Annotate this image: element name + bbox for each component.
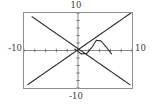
- plot-frame: [23, 12, 133, 89]
- curves-layer: [28, 13, 131, 85]
- axes-layer: [24, 13, 132, 88]
- axis-label-top: 10: [0, 1, 152, 10]
- curve-v-peak-curve: [75, 40, 112, 54]
- axis-label-bottom: -10: [0, 92, 152, 101]
- axis-label-right: 10: [135, 44, 152, 53]
- plot-canvas: [24, 13, 132, 88]
- axis-label-left: -10: [1, 44, 22, 53]
- graph-figure: 10 -10 10 -10: [0, 0, 152, 105]
- curve-ascending-line: [28, 13, 131, 85]
